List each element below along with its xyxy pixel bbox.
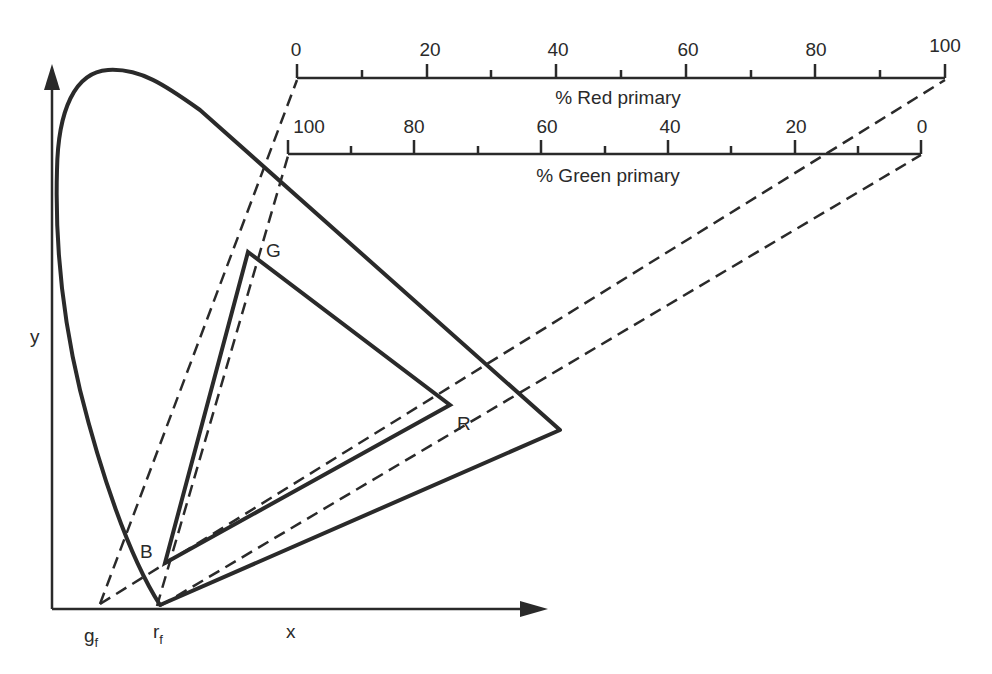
- rf-to-green-0: [160, 155, 921, 606]
- red-scale-title: % Red primary: [555, 87, 681, 108]
- red-tick-0: 0: [291, 39, 302, 60]
- red-tick-100: 100: [929, 35, 961, 56]
- vertex-r-label: R: [457, 413, 471, 434]
- green-tick-100: 100: [293, 116, 325, 137]
- rf-label: rf: [153, 621, 163, 647]
- vertex-b-label: B: [140, 541, 153, 562]
- red-tick-60: 60: [677, 39, 698, 60]
- green-tick-80: 80: [403, 116, 424, 137]
- y-axis-label: y: [30, 326, 40, 347]
- x-axis-label: x: [286, 621, 296, 642]
- red-primary-scale: 0 20 40 60 80 100 % Red primary: [291, 35, 961, 108]
- green-scale-ticks: [288, 140, 921, 154]
- green-tick-20: 20: [785, 116, 806, 137]
- x-axis-arrow-icon: [520, 601, 548, 617]
- spectral-locus: [57, 70, 560, 605]
- red-tick-20: 20: [419, 39, 440, 60]
- y-axis-arrow-icon: [44, 64, 60, 90]
- red-tick-40: 40: [547, 39, 568, 60]
- red-scale-ticks: [297, 64, 945, 78]
- gf-label: gf: [84, 625, 99, 650]
- green-tick-40: 40: [659, 116, 680, 137]
- vertex-g-label: G: [266, 240, 281, 261]
- rf-to-green-100: [157, 156, 288, 606]
- gf-to-red-100: [100, 80, 945, 604]
- green-tick-0: 0: [917, 116, 928, 137]
- chromaticity-diagram: y x gf rf G R B 0 20 40: [0, 0, 992, 674]
- primaries-triangle: [165, 252, 450, 563]
- green-tick-60: 60: [536, 116, 557, 137]
- gf-to-red-0: [100, 80, 297, 604]
- green-scale-title: % Green primary: [536, 165, 680, 186]
- red-tick-80: 80: [805, 39, 826, 60]
